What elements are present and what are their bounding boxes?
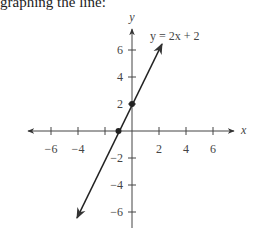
svg-text:−6: −6 (45, 142, 58, 156)
svg-text:−4: −4 (110, 178, 123, 192)
svg-text:−2: −2 (110, 151, 123, 165)
line-graph: −6 −4 2 4 6 6 4 2 −2 −4 −6 y x y = 2x + … (0, 0, 257, 228)
equation-label: y = 2x + 2 (150, 29, 200, 43)
svg-text:2: 2 (117, 97, 123, 111)
svg-text:6: 6 (210, 142, 216, 156)
svg-text:−6: −6 (110, 205, 123, 219)
y-axis-label: y (128, 10, 135, 24)
svg-text:6: 6 (117, 43, 123, 57)
point-x-intercept (116, 128, 122, 134)
x-axis-label: x (240, 123, 247, 137)
svg-text:4: 4 (183, 142, 189, 156)
svg-text:4: 4 (117, 70, 123, 84)
svg-text:2: 2 (156, 142, 162, 156)
point-y-intercept (129, 101, 135, 107)
svg-text:−4: −4 (72, 142, 85, 156)
x-tick-labels: −6 −4 2 4 6 (45, 142, 216, 156)
